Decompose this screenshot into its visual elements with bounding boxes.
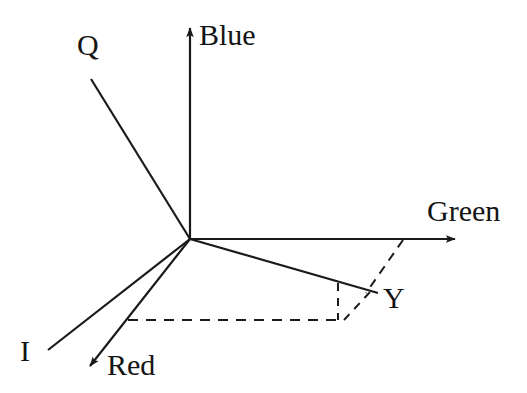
projection-diagonal-short-line bbox=[344, 291, 371, 320]
red-axis-label: Red bbox=[107, 350, 155, 380]
i-vector-line bbox=[48, 239, 190, 350]
green-axis-label: Green bbox=[427, 196, 500, 226]
q-vector-label: Q bbox=[77, 30, 99, 60]
figure-canvas: Blue Green Red Q I Y bbox=[0, 0, 527, 393]
y-vector-line bbox=[190, 239, 378, 293]
blue-axis-label: Blue bbox=[199, 20, 256, 50]
y-vector-label: Y bbox=[383, 283, 405, 313]
i-vector-label: I bbox=[20, 336, 30, 366]
q-vector-line bbox=[91, 79, 190, 239]
red-axis-line bbox=[90, 239, 190, 366]
